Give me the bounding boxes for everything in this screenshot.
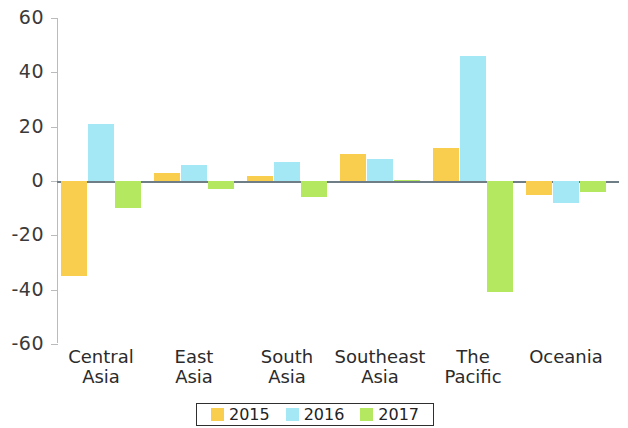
y-tick-mark [51, 344, 58, 345]
bar [61, 181, 87, 276]
y-tick-label: 20 [0, 117, 44, 136]
legend-swatch-icon [286, 408, 299, 421]
y-tick-label: -60 [0, 334, 44, 353]
x-axis-label-line2: Pacific [413, 367, 533, 387]
bar [394, 180, 420, 182]
bar-chart: 6040200-20-40-60 CentralAsiaEastAsiaSout… [0, 0, 628, 428]
x-axis-label-line1: Southeast [335, 346, 426, 367]
legend-item-2016[interactable]: 2016 [286, 407, 345, 423]
y-tick-label: -20 [0, 225, 44, 244]
y-tick-label: 60 [0, 8, 44, 27]
legend-label: 2016 [304, 407, 345, 423]
bar [154, 173, 180, 181]
bar [274, 162, 300, 181]
bar [208, 181, 234, 189]
legend-swatch-icon [360, 408, 373, 421]
bar [88, 124, 114, 181]
x-axis-label-line1: Oceania [529, 346, 603, 367]
x-axis-label-line1: South [261, 346, 313, 367]
x-axis-label-line1: Central [68, 346, 134, 367]
bar [367, 159, 393, 181]
legend-item-2017[interactable]: 2017 [360, 407, 419, 423]
plot-area [57, 18, 623, 343]
bar [580, 181, 606, 192]
bar [526, 181, 552, 195]
bar [340, 154, 366, 181]
bar [181, 165, 207, 181]
x-axis-label-line1: The [456, 346, 489, 367]
bar [460, 56, 486, 181]
x-axis-label-line1: East [175, 346, 214, 367]
bar [247, 176, 273, 181]
bar [433, 148, 459, 181]
chart-legend: 201520162017 [196, 403, 434, 426]
legend-label: 2017 [378, 407, 419, 423]
x-axis-label-oceania: Oceania [506, 347, 626, 367]
legend-item-2015[interactable]: 2015 [211, 407, 270, 423]
y-tick-label: 0 [0, 171, 44, 190]
y-tick-label: 40 [0, 62, 44, 81]
legend-swatch-icon [211, 408, 224, 421]
legend-label: 2015 [229, 407, 270, 423]
bar [115, 181, 141, 208]
bar [301, 181, 327, 197]
y-tick-label: -40 [0, 280, 44, 299]
bar [487, 181, 513, 292]
bar [553, 181, 579, 203]
